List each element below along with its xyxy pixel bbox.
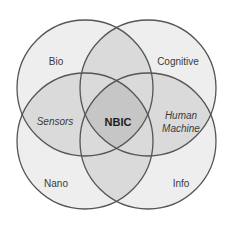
label-info: Info	[173, 178, 190, 190]
label-human: Human	[165, 110, 197, 122]
label-machine: Machine	[162, 123, 200, 135]
label-nbic: NBIC	[105, 116, 132, 128]
venn-graphic	[0, 0, 232, 227]
label-bio: Bio	[49, 56, 63, 68]
label-sensors: Sensors	[37, 116, 74, 128]
label-cognitive: Cognitive	[157, 56, 199, 68]
label-nano: Nano	[44, 178, 68, 190]
nbic-venn-diagram: Bio Cognitive Nano Info Sensors NBIC Hum…	[0, 0, 232, 227]
